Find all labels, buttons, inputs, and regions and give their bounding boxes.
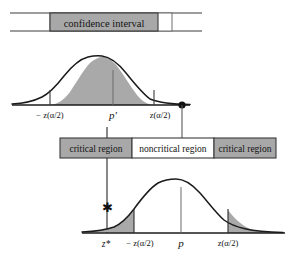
bottom-axis-label-right: z(α/2) bbox=[218, 238, 239, 248]
figure-canvas: confidence interval − z(α/2) p′ z(α/2) c… bbox=[0, 0, 289, 260]
bottom-axis-label-left: − z(α/2) bbox=[126, 238, 154, 248]
bottom-axis-label-center: p bbox=[177, 237, 184, 249]
confidence-interval-bar: confidence interval bbox=[10, 13, 202, 31]
confidence-interval-label: confidence interval bbox=[64, 18, 145, 29]
top-axis-label-left: − z(α/2) bbox=[36, 110, 64, 120]
bottom-normal-curve-group: ✱ z* − z(α/2) p z(α/2) bbox=[82, 179, 285, 249]
critical-region-right-label: critical region bbox=[218, 144, 271, 154]
z-star-asterisk-marker: ✱ bbox=[102, 200, 113, 215]
noncritical-region-label: noncritical region bbox=[139, 144, 207, 154]
top-curve-center-shading bbox=[50, 57, 154, 105]
bottom-curve-right-tail-shading bbox=[228, 210, 283, 233]
top-axis-label-center: p′ bbox=[108, 109, 118, 121]
top-normal-curve-group: − z(α/2) p′ z(α/2) bbox=[12, 56, 190, 121]
region-label-bar: critical region noncritical region criti… bbox=[60, 138, 276, 158]
top-axis-label-right: z(α/2) bbox=[150, 110, 171, 120]
bottom-axis-label-zstar: z* bbox=[101, 239, 111, 249]
critical-region-left-label: critical region bbox=[69, 144, 122, 154]
